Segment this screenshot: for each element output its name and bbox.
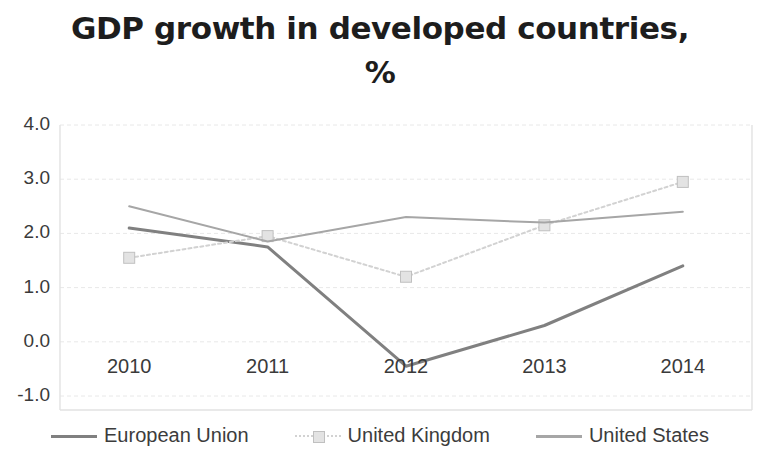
y-tick-label: 2.0 [0,221,50,243]
x-tick-label: 2013 [499,355,589,378]
legend-key-icon [51,429,97,443]
chart-legend: European UnionUnited KingdomUnited State… [0,424,760,447]
legend-item-united-kingdom[interactable]: United Kingdom [295,424,490,447]
legend-label: United Kingdom [348,424,490,447]
legend-key-icon [295,429,341,443]
x-tick-label: 2010 [84,355,174,378]
legend-item-united-states[interactable]: United States [536,424,709,447]
legend-marker-swatch [313,431,325,443]
series-layer [124,176,689,366]
series-line-united-kingdom [129,182,683,277]
y-tick-label: 4.0 [0,113,50,135]
y-tick-label: 1.0 [0,276,50,298]
y-tick-label: 3.0 [0,167,50,189]
legend-key-icon [536,429,582,443]
legend-item-european-union[interactable]: European Union [51,424,249,447]
gdp-growth-line-chart: GDP growth in developed countries, % 4.0… [0,0,760,456]
data-point-marker [401,271,412,282]
legend-label: United States [589,424,709,447]
series-line-european-union [129,228,683,366]
data-point-marker [677,176,688,187]
x-tick-label: 2012 [361,355,451,378]
x-tick-label: 2014 [638,355,728,378]
y-tick-label: 0.0 [0,330,50,352]
legend-line-swatch [536,435,582,438]
series-line-united-states [129,206,683,241]
plot-area [0,0,760,456]
y-tick-label: -1.0 [0,384,50,406]
data-point-marker [124,252,135,263]
legend-line-swatch [51,435,97,438]
x-tick-label: 2011 [223,355,313,378]
legend-label: European Union [104,424,249,447]
